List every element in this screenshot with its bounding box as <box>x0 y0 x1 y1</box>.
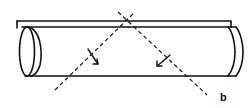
axis-label-b: b <box>220 91 227 103</box>
rotation-arrow-left-icon <box>88 49 98 64</box>
dashed-axis-b <box>118 12 207 95</box>
top-plate <box>17 21 236 28</box>
right-end-cap <box>228 27 243 76</box>
dashed-axis-a <box>55 12 135 90</box>
rotation-arrow-right-icon <box>157 55 170 66</box>
left-end-ellipse <box>20 27 35 76</box>
tube-diagram: b <box>0 0 252 108</box>
